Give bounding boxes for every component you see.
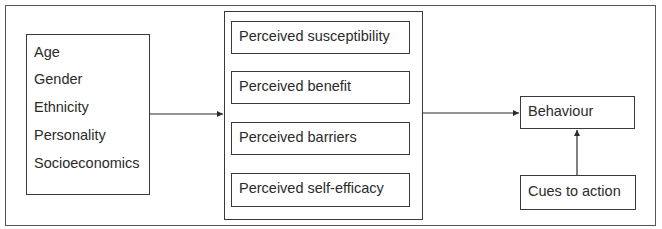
- connector-arrows: [0, 0, 662, 229]
